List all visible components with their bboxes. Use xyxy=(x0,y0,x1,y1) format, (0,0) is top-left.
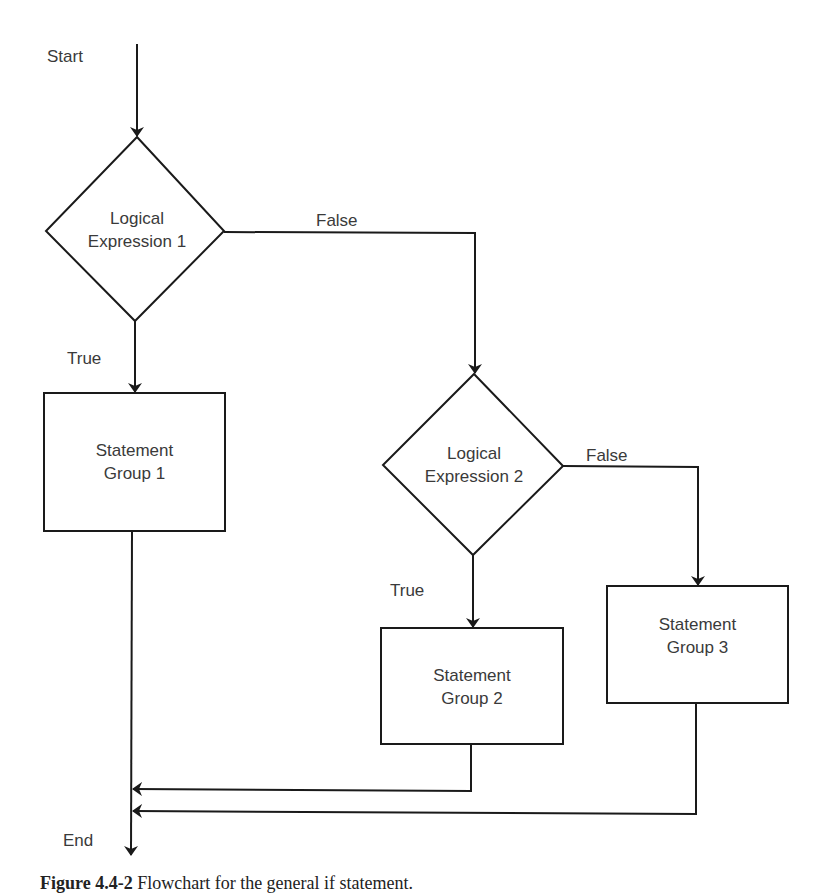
figure-caption-text: Flowchart for the general if statement. xyxy=(137,873,413,893)
decision-2-line1: Logical xyxy=(447,442,501,465)
end-label: End xyxy=(63,832,93,849)
figure-caption: Figure 4.4-2 Flowchart for the general i… xyxy=(40,874,413,892)
statement-group-1-line1: Statement xyxy=(96,439,174,462)
d2-false-label: False xyxy=(586,447,628,464)
d1-false-label: False xyxy=(316,212,358,229)
decision-2-text: Logical Expression 2 xyxy=(406,439,542,491)
decision-2-line2: Expression 2 xyxy=(425,465,523,488)
decision-1-line2: Expression 1 xyxy=(88,230,186,253)
figure-label: Figure 4.4-2 xyxy=(40,873,133,893)
d2-true-label: True xyxy=(390,582,424,599)
statement-group-1-text: Statement Group 1 xyxy=(44,436,225,488)
statement-group-3-line2: Group 3 xyxy=(667,636,728,659)
statement-group-1-line2: Group 1 xyxy=(104,462,165,485)
statement-group-3-text: Statement Group 3 xyxy=(607,610,788,662)
statement-group-2-text: Statement Group 2 xyxy=(381,661,563,713)
decision-1-text: Logical Expression 1 xyxy=(70,204,204,256)
decision-1-line1: Logical xyxy=(110,207,164,230)
d1-true-label: True xyxy=(67,350,101,367)
statement-group-3-line1: Statement xyxy=(659,613,737,636)
start-label: Start xyxy=(47,48,83,65)
d1-false-arrow xyxy=(224,232,475,373)
s2-return-arrow xyxy=(133,744,471,791)
statement-group-2-line2: Group 2 xyxy=(441,687,502,710)
s1-to-end-arrow xyxy=(131,531,132,855)
statement-group-2-line1: Statement xyxy=(433,664,511,687)
d2-false-arrow xyxy=(563,466,698,585)
